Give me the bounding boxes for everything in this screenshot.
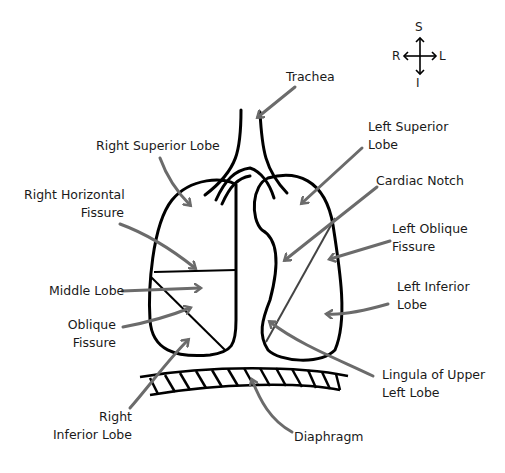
compass-arrows-icon: [404, 38, 436, 74]
label-cardiac-notch: Cardiac Notch: [376, 172, 464, 190]
label-right-inferior-lobe: Right Inferior Lobe: [52, 408, 132, 444]
label-line: Right: [52, 408, 132, 426]
label-line: Oblique: [60, 316, 116, 334]
diaphragm-shape: [140, 368, 348, 395]
compass-inferior: I: [416, 76, 420, 90]
label-line: Lobe: [397, 296, 470, 314]
label-left-superior-lobe: Left Superior Lobe: [368, 118, 448, 154]
label-diaphragm: Diaphragm: [294, 428, 364, 446]
trachea-outline: [205, 110, 287, 204]
compass-right: R: [392, 49, 400, 63]
label-line: Inferior Lobe: [52, 426, 132, 444]
label-line: Left Inferior: [397, 278, 470, 296]
compass-left: L: [439, 49, 446, 63]
label-line: Left Superior: [368, 118, 448, 136]
left-lung-outline: [254, 175, 342, 360]
label-line: Left Lobe: [382, 384, 485, 402]
label-line: Right Horizontal: [24, 186, 124, 204]
label-left-oblique-fissure: Left Oblique Fissure: [392, 220, 468, 256]
label-line: Fissure: [24, 204, 124, 222]
label-right-horizontal-fissure: Right Horizontal Fissure: [24, 186, 124, 222]
label-line: Fissure: [392, 238, 468, 256]
label-oblique-fissure: Oblique Fissure: [60, 316, 116, 352]
label-trachea: Trachea: [286, 68, 335, 86]
label-lingula: Lingula of Upper Left Lobe: [382, 366, 485, 402]
label-line: Lobe: [368, 136, 448, 154]
label-line: Left Oblique: [392, 220, 468, 238]
compass-superior: S: [415, 20, 423, 34]
label-right-superior-lobe: Right Superior Lobe: [96, 137, 220, 155]
label-line: Fissure: [60, 334, 116, 352]
label-line: Lingula of Upper: [382, 366, 485, 384]
label-middle-lobe: Middle Lobe: [49, 282, 124, 300]
label-left-inferior-lobe: Left Inferior Lobe: [397, 278, 470, 314]
